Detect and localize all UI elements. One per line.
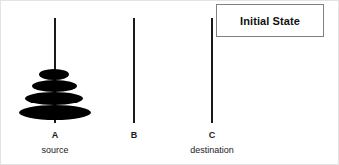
peg-role-source: source — [20, 145, 90, 155]
disk-size-3 — [25, 92, 83, 105]
peg-label-b: B — [114, 130, 154, 140]
hanoi-diagram: A B C source destination Initial State — [0, 0, 339, 165]
peg-role-destination: destination — [176, 145, 248, 155]
disk-size-2 — [32, 80, 77, 92]
state-label-text: Initial State — [240, 15, 300, 27]
peg-c — [211, 18, 213, 123]
disk-size-4 — [19, 105, 91, 120]
peg-b — [133, 18, 135, 123]
peg-label-c: C — [192, 130, 232, 140]
peg-label-a: A — [35, 130, 75, 140]
state-label-box: Initial State — [216, 4, 324, 37]
disk-size-1 — [39, 69, 69, 80]
